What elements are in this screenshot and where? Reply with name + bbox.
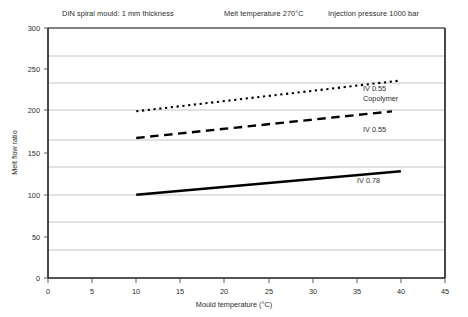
y-tick-300: 300 [6,24,40,33]
series-label-iv055: IV 0.55 [363,125,386,135]
x-tick-30: 30 [298,287,328,296]
x-tick-0: 0 [33,287,63,296]
series-label-line-1: IV 0.55 [363,84,398,94]
series-label-iv055-copolymer: IV 0.55 Copolymer [363,84,398,103]
x-tick-25: 25 [254,287,284,296]
y-axis-title: Melt flow ratio [10,108,19,198]
series-line-iv055-copolymer [136,81,401,112]
series-label-line-1: IV 0.55 [363,125,386,135]
chart-figure: DIN spiral mould: 1 mm thickness Melt te… [0,0,468,317]
x-tick-35: 35 [342,287,372,296]
plot-frame [48,28,445,278]
series-label-iv078: IV 0.78 [357,176,380,186]
y-tick-250: 250 [6,65,40,74]
series-label-line-1: IV 0.78 [357,176,380,186]
x-axis-title: Mould temperature (°C) [0,300,468,309]
y-tick-0: 0 [6,274,40,283]
x-tick-10: 10 [121,287,151,296]
x-tick-20: 20 [209,287,239,296]
y-tick-50: 50 [6,233,40,242]
x-tick-15: 15 [165,287,195,296]
x-tick-5: 5 [77,287,107,296]
gridlines [48,28,445,250]
x-tick-40: 40 [386,287,416,296]
series-line-iv055 [136,111,392,138]
x-tick-45: 45 [430,287,460,296]
series-label-line-2: Copolymer [363,94,398,104]
plot-canvas [0,0,468,317]
